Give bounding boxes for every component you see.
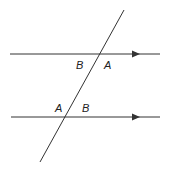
transversal-line [40, 10, 124, 162]
angle-label-bottom-left: A [54, 102, 62, 114]
angle-label-top-right: A [103, 59, 111, 71]
angle-label-bottom-right: B [82, 102, 89, 114]
diagram-canvas: B A A B [0, 0, 173, 175]
angle-label-top-left: B [76, 59, 83, 71]
top-line-arrow-icon [132, 51, 140, 58]
bottom-line-arrow-icon [132, 114, 140, 121]
